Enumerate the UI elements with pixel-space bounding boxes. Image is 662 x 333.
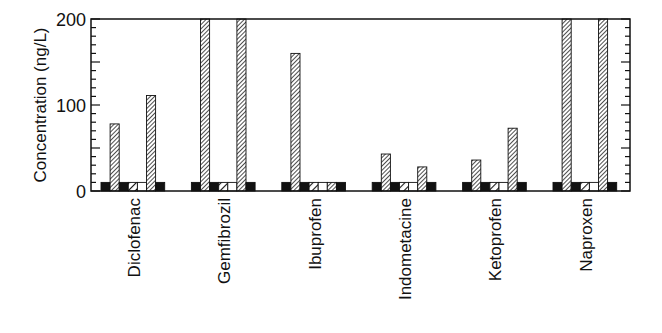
bar	[418, 167, 427, 191]
bar	[246, 182, 255, 191]
bar	[110, 124, 119, 191]
bar-group-diclofenac	[101, 96, 165, 191]
bar	[571, 182, 580, 191]
y-tick-label: 200	[56, 10, 86, 30]
bar	[219, 182, 228, 191]
bar	[291, 53, 300, 191]
y-tick-label: 100	[56, 96, 86, 116]
bar-chart: DiclofenacGemfibrozilIbuprofenIndometaci…	[0, 0, 662, 333]
bar	[517, 182, 526, 191]
bar	[300, 182, 309, 191]
bar	[336, 182, 345, 191]
bar	[481, 182, 490, 191]
bar	[409, 182, 418, 191]
bar	[599, 19, 608, 191]
bar	[327, 182, 336, 191]
x-tick-label: Ketoprofen	[486, 198, 505, 281]
bar	[390, 182, 399, 191]
bar	[137, 182, 146, 191]
bar	[309, 182, 318, 191]
bar	[210, 182, 219, 191]
bar	[381, 154, 390, 191]
bar	[553, 182, 562, 191]
bar	[156, 182, 165, 191]
bar	[427, 182, 436, 191]
bar	[508, 128, 517, 191]
bar	[608, 182, 617, 191]
bar	[237, 19, 246, 191]
x-tick-label: Ibuprofen	[306, 198, 325, 270]
bars-layer	[101, 19, 617, 191]
x-tick-label: Naproxen	[577, 198, 596, 272]
bar	[562, 19, 571, 191]
bar	[490, 182, 499, 191]
bar	[101, 182, 110, 191]
bar	[463, 182, 472, 191]
bar-group-ketoprofen	[463, 128, 527, 191]
bar-group-indometacine	[372, 154, 436, 191]
bar-group-ibuprofen	[282, 53, 346, 191]
bar	[589, 182, 598, 191]
y-tick-label: 0	[76, 182, 86, 202]
x-tick-label: Indometacine	[396, 198, 415, 300]
bar	[119, 182, 128, 191]
y-axis-title: Concentration (ng/L)	[31, 28, 50, 183]
bar	[372, 182, 381, 191]
bar	[472, 160, 481, 191]
bar	[128, 182, 137, 191]
bar-group-naproxen	[553, 19, 617, 191]
bar	[201, 19, 210, 191]
axes-layer	[91, 19, 630, 191]
plot-frame	[91, 19, 630, 191]
x-tick-label: Gemfibrozil	[215, 198, 234, 284]
bar	[147, 96, 156, 191]
bar-group-gemfibrozil	[191, 19, 255, 191]
bar	[499, 182, 508, 191]
bar	[580, 182, 589, 191]
bar	[282, 182, 291, 191]
bar	[318, 182, 327, 191]
bar	[400, 182, 409, 191]
bar	[228, 182, 237, 191]
bar	[191, 182, 200, 191]
x-tick-label: Diclofenac	[125, 198, 144, 278]
